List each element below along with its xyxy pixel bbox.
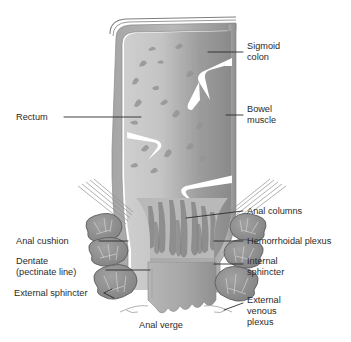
anal-verge-group <box>148 262 216 313</box>
label-sigmoid-colon-line1: Sigmoid <box>247 41 280 51</box>
label-external-venous-plexus-line3: plexus <box>247 317 274 327</box>
label-anal-verge: Anal verge <box>139 320 183 330</box>
label-anal-cushion: Anal cushion <box>16 236 69 246</box>
label-external-sphincter: External sphincter <box>14 288 88 298</box>
label-anal-columns: Anal columns <box>247 206 303 216</box>
anatomy-illustration: Sigmoid colon Bowel muscle Rectum Anal c… <box>0 0 351 342</box>
diagram-canvas: Sigmoid colon Bowel muscle Rectum Anal c… <box>0 0 351 342</box>
label-internal-sphincter-line2: sphincter <box>247 267 284 277</box>
label-bowel-muscle-line1: Bowel <box>247 104 272 114</box>
leader-external-venous-plexus <box>224 303 243 310</box>
label-rectum: Rectum <box>16 112 48 122</box>
label-dentate-line1: Dentate <box>16 256 48 266</box>
label-external-venous-plexus-line1: External <box>247 295 281 305</box>
label-sigmoid-colon-line2: colon <box>247 52 269 62</box>
label-hemorrhoidal-plexus: Hemorrhoidal plexus <box>247 236 332 246</box>
label-bowel-muscle-line2: muscle <box>247 115 276 125</box>
label-dentate-line2: (pectinate line) <box>16 267 76 277</box>
label-internal-sphincter-line1: Internal <box>247 256 278 266</box>
label-external-venous-plexus-line2: venous <box>247 306 277 316</box>
